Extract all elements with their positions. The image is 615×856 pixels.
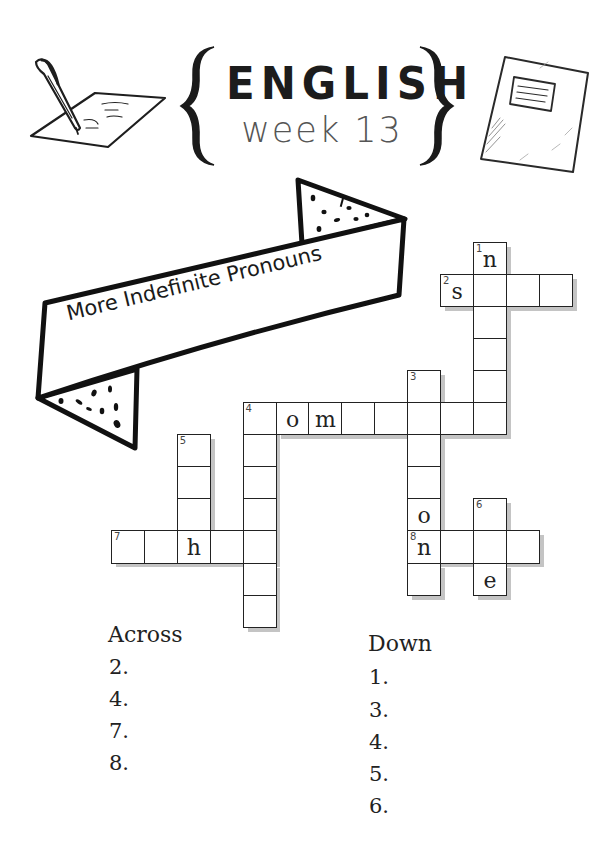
crossword-cell[interactable]: [407, 563, 441, 596]
crossword-cell[interactable]: 2s: [440, 274, 474, 307]
crossword-cell[interactable]: [473, 370, 507, 403]
crossword-cell[interactable]: [243, 530, 277, 563]
across-heading: Across: [108, 622, 183, 648]
crossword-cell[interactable]: 7: [111, 530, 145, 563]
clue-number: 5: [180, 435, 186, 446]
across-clue-8[interactable]: 8.: [109, 750, 129, 776]
crossword-cell[interactable]: [473, 530, 507, 563]
crossword-cell[interactable]: [407, 434, 441, 467]
cell-letter: n: [408, 533, 440, 563]
crossword-cell[interactable]: [440, 530, 474, 563]
crossword-cell[interactable]: [473, 306, 507, 339]
crossword-cell[interactable]: [243, 434, 277, 467]
cell-letter: h: [178, 533, 210, 563]
cell-letter: o: [408, 501, 440, 531]
crossword-cell[interactable]: [374, 402, 408, 435]
crossword-cell[interactable]: o: [407, 498, 441, 531]
crossword-cell[interactable]: [407, 402, 441, 435]
crossword-cell[interactable]: [539, 274, 573, 307]
across-clue-7[interactable]: 7.: [109, 718, 129, 744]
clue-number: 3: [410, 371, 416, 382]
cell-letter: s: [441, 277, 473, 307]
down-heading: Down: [368, 631, 432, 657]
crossword-cell[interactable]: [243, 466, 277, 499]
cell-letter: n: [474, 245, 506, 275]
crossword-cell[interactable]: [177, 466, 211, 499]
crossword-cell[interactable]: [341, 402, 375, 435]
down-clue-4[interactable]: 4.: [369, 729, 389, 755]
clue-number: 6: [476, 499, 482, 510]
down-clue-3[interactable]: 3.: [369, 697, 389, 723]
crossword-cell[interactable]: [243, 498, 277, 531]
down-clue-1[interactable]: 1.: [369, 664, 389, 690]
crossword-cell[interactable]: [210, 530, 244, 563]
crossword-cell[interactable]: 6: [473, 498, 507, 531]
crossword-cell[interactable]: 4: [243, 402, 277, 435]
crossword-cell[interactable]: [243, 595, 277, 628]
crossword-cell[interactable]: [506, 274, 540, 307]
cell-letter: o: [277, 405, 309, 435]
crossword-cell[interactable]: 5: [177, 434, 211, 467]
crossword-cell[interactable]: m: [308, 402, 342, 435]
crossword-cell[interactable]: [144, 530, 178, 563]
crossword-cell[interactable]: h: [177, 530, 211, 563]
cell-letter: m: [309, 405, 341, 435]
clue-number: 7: [114, 531, 120, 542]
crossword-cell[interactable]: 8n: [407, 530, 441, 563]
crossword-cell[interactable]: [177, 498, 211, 531]
clue-number: 4: [246, 403, 252, 414]
crossword-cell[interactable]: 1n: [473, 242, 507, 275]
crossword-grid: 1n2s34om5o67h8ne: [0, 0, 615, 856]
across-clue-4[interactable]: 4.: [109, 686, 129, 712]
crossword-cell[interactable]: [407, 466, 441, 499]
crossword-cell[interactable]: [506, 530, 540, 563]
crossword-cell[interactable]: [473, 338, 507, 371]
crossword-cell[interactable]: o: [276, 402, 310, 435]
crossword-cell[interactable]: e: [473, 563, 507, 596]
cell-letter: e: [474, 566, 506, 596]
across-clue-2[interactable]: 2.: [109, 654, 129, 680]
crossword-cell[interactable]: [473, 274, 507, 307]
crossword-cell[interactable]: 3: [407, 370, 441, 403]
down-clue-5[interactable]: 5.: [369, 761, 389, 787]
crossword-cell[interactable]: [440, 402, 474, 435]
crossword-cell[interactable]: [473, 402, 507, 435]
down-clue-6[interactable]: 6.: [369, 793, 389, 819]
crossword-cell[interactable]: [243, 563, 277, 596]
